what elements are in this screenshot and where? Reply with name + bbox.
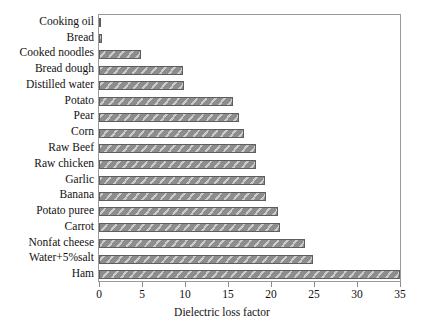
x-axis-tick-mark	[228, 282, 229, 287]
bar-row	[99, 47, 400, 63]
bar	[99, 255, 313, 264]
y-axis-label: Nonfat cheese	[29, 237, 94, 249]
y-axis-label: Carrot	[65, 221, 94, 233]
bar-row	[99, 267, 400, 282]
y-axis-label: Corn	[71, 126, 94, 138]
bar-row	[99, 31, 400, 47]
bar-row	[99, 188, 400, 204]
x-axis-tick-label: 30	[351, 288, 363, 301]
x-axis-tick-mark	[99, 282, 100, 287]
y-axis-label: Raw Beef	[48, 142, 94, 154]
bar-row	[99, 173, 400, 189]
bar	[99, 97, 233, 106]
bar-row	[99, 15, 400, 31]
bar-row	[99, 236, 400, 252]
bar	[99, 18, 101, 27]
y-axis-label: Cooking oil	[39, 16, 94, 28]
bar-row	[99, 220, 400, 236]
x-axis-tick-mark	[400, 282, 401, 287]
x-axis-tick-label: 20	[265, 288, 277, 301]
y-axis-label: Pear	[74, 110, 94, 122]
x-axis-tick-label: 0	[96, 288, 102, 301]
y-axis-label: Bread	[67, 32, 94, 44]
bar	[99, 50, 141, 59]
bar-row	[99, 251, 400, 267]
x-axis-tick-label: 35	[394, 288, 406, 301]
x-axis-tick-label: 5	[139, 288, 145, 301]
y-axis-label: Ham	[72, 268, 94, 280]
bar-row	[99, 78, 400, 94]
x-axis-tick-mark	[271, 282, 272, 287]
bar	[99, 223, 280, 232]
y-axis-label: Banana	[60, 189, 94, 201]
x-axis-title: Dielectric loss factor	[0, 306, 444, 318]
y-axis-label: Bread dough	[35, 63, 94, 75]
bar	[99, 113, 239, 122]
bar	[99, 81, 184, 90]
bar-row	[99, 110, 400, 126]
x-axis-tick-label: 15	[222, 288, 234, 301]
x-axis-tick-label: 10	[179, 288, 191, 301]
bar	[99, 66, 183, 75]
plot-area	[98, 14, 401, 282]
y-axis-label: Garlic	[65, 174, 94, 186]
y-axis-label: Distilled water	[26, 79, 94, 91]
bar-row	[99, 94, 400, 110]
y-axis-label: Water+5%salt	[29, 252, 94, 264]
bar-row	[99, 125, 400, 141]
x-axis-tick-mark	[314, 282, 315, 287]
y-axis-label: Cooked noodles	[20, 47, 94, 59]
bar	[99, 239, 305, 248]
y-axis-labels: Cooking oilBreadCooked noodlesBread doug…	[0, 14, 94, 282]
bar	[99, 129, 244, 138]
bar	[99, 144, 256, 153]
bar	[99, 270, 400, 279]
bar	[99, 192, 266, 201]
bar	[99, 34, 102, 43]
y-axis-label: Raw chicken	[34, 158, 94, 170]
x-axis-tick-label: 25	[308, 288, 320, 301]
bar-row	[99, 62, 400, 78]
x-axis-tick-mark	[142, 282, 143, 287]
bar-row	[99, 204, 400, 220]
x-axis-tick-mark	[357, 282, 358, 287]
y-axis-label: Potato	[65, 95, 94, 107]
dielectric-loss-factor-bar-chart: Cooking oilBreadCooked noodlesBread doug…	[0, 0, 444, 328]
bar	[99, 176, 265, 185]
bar	[99, 160, 256, 169]
bar-row	[99, 141, 400, 157]
bar-row	[99, 157, 400, 173]
x-axis-tick-mark	[185, 282, 186, 287]
y-axis-label: Potato puree	[36, 205, 94, 217]
bar	[99, 207, 278, 216]
